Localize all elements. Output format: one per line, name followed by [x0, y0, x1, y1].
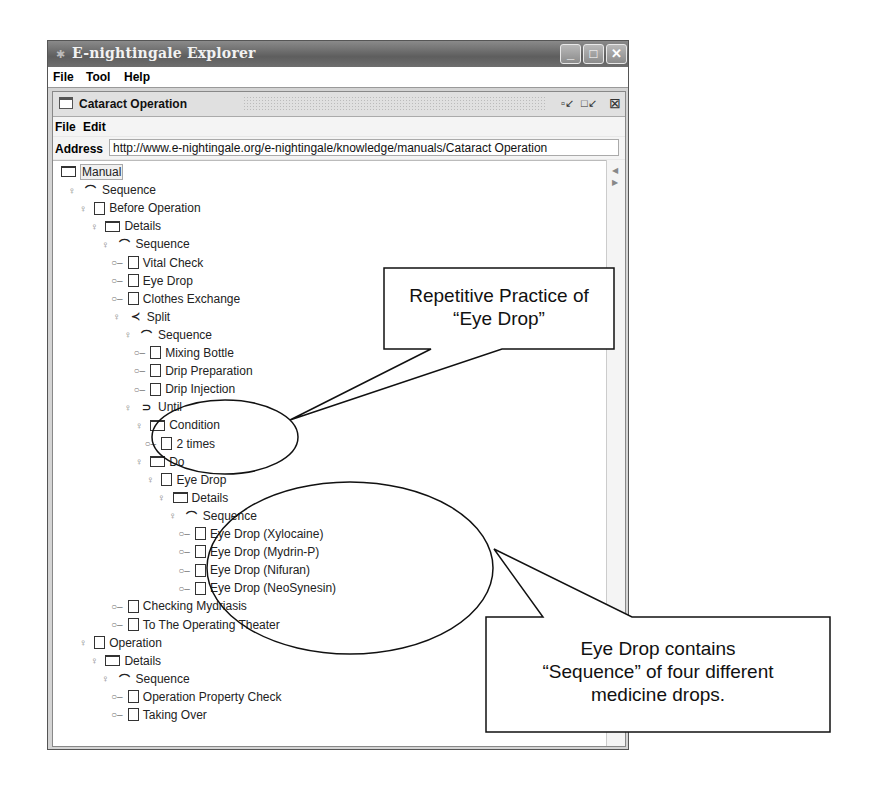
highlight-ellipse-sequence — [207, 482, 493, 654]
callout-top-line2: “Eye Drop” — [384, 307, 614, 330]
callout-bottom-line3: medicine drops. — [486, 683, 830, 706]
callout-bottom-line1: Eye Drop contains — [486, 637, 830, 660]
callout-bottom-line2: “Sequence” of four different — [486, 660, 830, 683]
callout-bottom-text: Eye Drop contains “Sequence” of four dif… — [486, 637, 830, 706]
highlight-ellipse-until — [152, 400, 298, 474]
callout-top-text: Repetitive Practice of “Eye Drop” — [384, 284, 614, 330]
callout-top-line1: Repetitive Practice of — [384, 284, 614, 307]
